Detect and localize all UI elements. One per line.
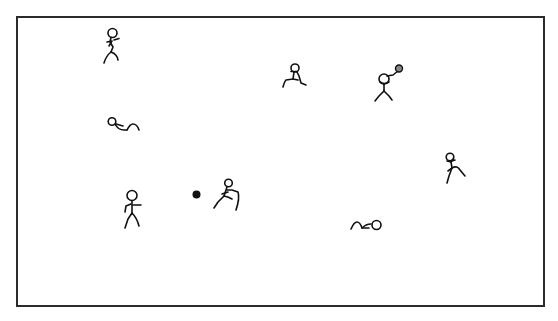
stick-figure-kicking xyxy=(214,179,239,210)
stick-figure-standing xyxy=(125,191,141,229)
held-ball-icon xyxy=(396,65,403,72)
stick-figure-throwing-ball xyxy=(375,65,403,101)
stick-figure-running-1 xyxy=(104,29,119,64)
stick-figure-running-3 xyxy=(446,153,465,183)
scene-illustration xyxy=(0,0,558,321)
stick-figure-lying-1 xyxy=(108,118,139,130)
stick-figure-running-2 xyxy=(283,64,306,87)
ball-icon xyxy=(193,191,201,199)
stick-figure-lying-2 xyxy=(351,221,381,230)
